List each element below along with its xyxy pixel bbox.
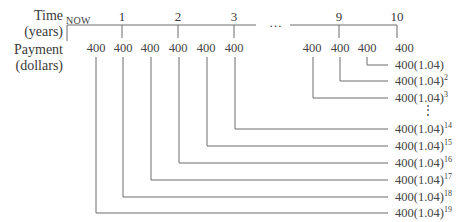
timeline-lines	[0, 0, 465, 222]
annuity-timeline-diagram: Time (years) Payment (dollars) NOW 1 2 3…	[0, 0, 465, 222]
